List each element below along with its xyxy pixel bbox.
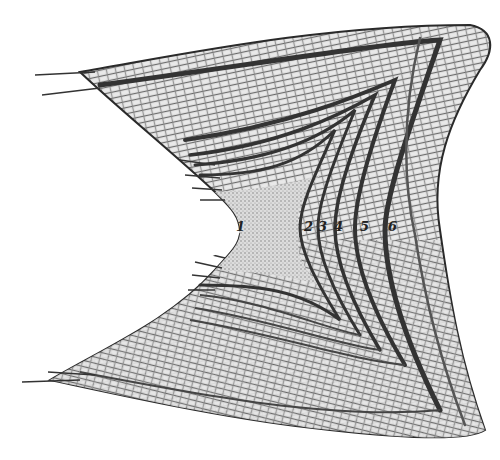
fish-scale-illustration bbox=[0, 0, 500, 460]
ring-label-1: 1 bbox=[236, 219, 245, 234]
ring-label-2: 2 bbox=[304, 219, 313, 234]
ring-label-6: 6 bbox=[388, 219, 397, 234]
ring-label-3: 3 bbox=[318, 219, 327, 234]
ring-label-4: 4 bbox=[334, 219, 343, 234]
ring-label-5: 5 bbox=[360, 219, 369, 234]
